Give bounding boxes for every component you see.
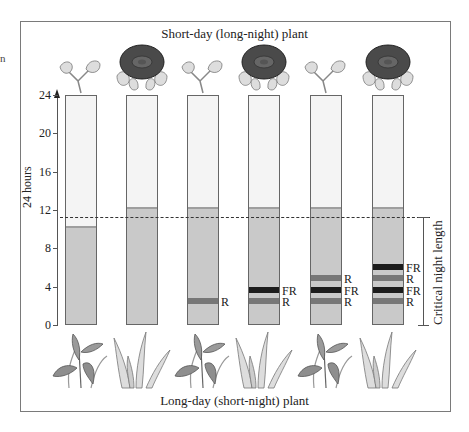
flash-label: FR: [344, 285, 359, 297]
red-light-flash: [373, 275, 403, 281]
flowering-plant-icon: [357, 42, 419, 98]
flowering-long-day-plant-icon: [173, 330, 233, 394]
photoperiod-bar: [248, 95, 280, 325]
vegetative-sprig-icon: [301, 55, 351, 99]
red-light-flash: [373, 298, 403, 304]
night-segment: [249, 207, 279, 324]
far-red-light-flash: [373, 264, 403, 270]
y-tick-label: 4: [24, 281, 51, 293]
photoperiod-bar: [372, 95, 404, 325]
y-tick: [53, 133, 58, 134]
critical-night-line: [60, 217, 430, 218]
flowering-plant-icon: [233, 42, 295, 98]
photoperiod-bar: [187, 95, 219, 325]
photoperiod-bar: [310, 95, 342, 325]
red-light-flash: [188, 298, 218, 304]
flowering-plant-icon: [111, 42, 173, 98]
flash-label: R: [406, 273, 414, 285]
y-tick-label: 0: [24, 319, 51, 331]
y-tick: [53, 248, 58, 249]
red-light-flash: [311, 275, 341, 281]
y-tick-label: 20: [24, 127, 51, 139]
y-tick: [53, 287, 58, 288]
night-segment: [188, 207, 218, 324]
vegetative-grass-plant-icon: [234, 330, 294, 394]
vegetative-sprig-icon: [178, 55, 228, 99]
critical-night-length-label: Critical night length: [430, 220, 446, 325]
y-axis-line: [57, 96, 58, 326]
flash-label: R: [221, 296, 229, 308]
far-red-light-flash: [311, 287, 341, 293]
flash-label: FR: [406, 285, 421, 297]
night-segment: [311, 207, 341, 324]
bracket-cap-bottom: [418, 325, 429, 326]
short-day-plant-title: Short-day (long-night) plant: [0, 26, 469, 42]
red-light-flash: [311, 298, 341, 304]
bracket-cap-top: [418, 217, 429, 218]
y-tick-label: 12: [24, 204, 51, 216]
vegetative-grass-plant-icon: [358, 330, 418, 394]
y-tick-label: 24: [24, 89, 51, 101]
flowering-long-day-plant-icon: [51, 330, 111, 394]
red-light-flash: [249, 298, 279, 304]
flash-label: FR: [282, 285, 297, 297]
flowering-long-day-plant-icon: [296, 330, 356, 394]
flash-label: R: [406, 296, 414, 308]
flash-label: R: [344, 296, 352, 308]
night-segment: [127, 207, 157, 324]
critical-night-bracket: [423, 217, 424, 326]
y-tick-label: 16: [24, 166, 51, 178]
photoperiod-bar: [126, 95, 158, 325]
edge-text-fragment: n: [0, 52, 6, 64]
long-day-plant-title: Long-day (short-night) plant: [0, 393, 469, 409]
y-tick: [53, 210, 58, 211]
flash-label: R: [282, 296, 290, 308]
flash-label: FR: [406, 262, 421, 274]
photoperiod-bar: [65, 95, 97, 325]
far-red-light-flash: [373, 287, 403, 293]
vegetative-grass-plant-icon: [112, 330, 172, 394]
flash-label: R: [344, 273, 352, 285]
far-red-light-flash: [249, 287, 279, 293]
y-tick: [53, 172, 58, 173]
night-segment: [66, 226, 96, 324]
y-tick-label: 8: [24, 242, 51, 254]
vegetative-sprig-icon: [56, 55, 106, 99]
y-tick: [53, 325, 58, 326]
